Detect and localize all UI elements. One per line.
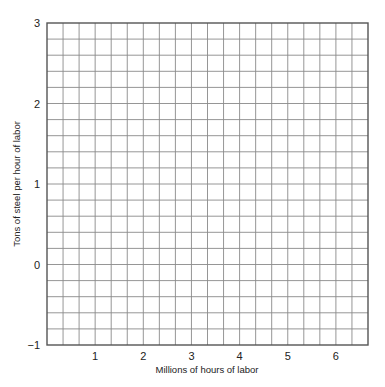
x-tick-label: 4	[237, 350, 243, 362]
x-tick-label: 1	[92, 350, 98, 362]
y-axis-label: Tons of steel per hour of labor	[11, 121, 22, 247]
x-axis-label: Millions of hours of labor	[156, 364, 259, 375]
x-axis-ticks: 123456	[92, 350, 339, 362]
x-tick-label: 5	[285, 350, 291, 362]
x-tick-label: 6	[333, 350, 339, 362]
y-tick-label: −1	[27, 339, 40, 351]
blank-graph-chart: 3210−1 123456 Millions of hours of labor…	[0, 0, 385, 387]
y-tick-label: 2	[34, 98, 40, 110]
y-tick-label: 3	[34, 17, 40, 29]
x-tick-label: 3	[188, 350, 194, 362]
y-tick-label: 1	[34, 178, 40, 190]
grid-lines	[47, 23, 368, 345]
x-tick-label: 2	[140, 350, 146, 362]
y-tick-label: 0	[34, 259, 40, 271]
y-axis-ticks: 3210−1	[27, 17, 40, 351]
